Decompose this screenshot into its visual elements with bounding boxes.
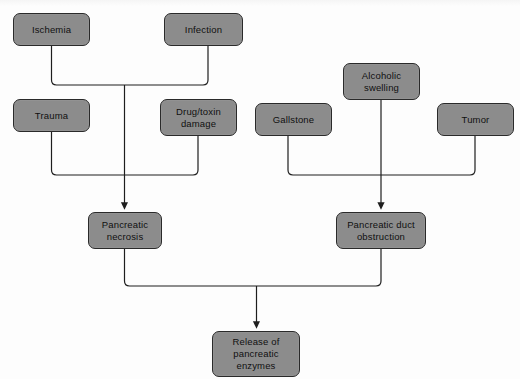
node-pancreatic-necrosis[interactable]: Pancreatic necrosis — [88, 212, 162, 249]
node-pancreatic-duct-obstruction-label: Pancreatic duct obstruction — [344, 219, 418, 243]
node-gallstone[interactable]: Gallstone — [255, 103, 332, 136]
node-release-of-pancreatic-enzymes[interactable]: Release of pancreatic enzymes — [212, 331, 300, 377]
node-trauma-label: Trauma — [32, 110, 71, 122]
node-ischemia-label: Ischemia — [29, 24, 74, 36]
node-infection-label: Infection — [182, 24, 225, 36]
node-drug-toxin-damage[interactable]: Drug/toxin damage — [160, 99, 237, 136]
node-release-of-pancreatic-enzymes-label: Release of pancreatic enzymes — [230, 336, 283, 372]
node-drug-toxin-damage-label: Drug/toxin damage — [173, 106, 224, 130]
flowchart-canvas: Ischemia Infection Trauma Drug/toxin dam… — [0, 0, 520, 379]
node-pancreatic-duct-obstruction[interactable]: Pancreatic duct obstruction — [336, 212, 426, 249]
edge-necrosis-obstruction-merge — [125, 249, 382, 286]
node-alcoholic-swelling[interactable]: Alcoholic swelling — [343, 63, 420, 100]
edge-ischemia-infection-merge — [52, 46, 209, 85]
node-alcoholic-swelling-label: Alcoholic swelling — [359, 70, 404, 94]
connector-lines — [0, 0, 520, 379]
node-tumor-label: Tumor — [459, 114, 493, 126]
node-gallstone-label: Gallstone — [270, 114, 317, 126]
node-trauma[interactable]: Trauma — [13, 99, 90, 132]
node-tumor[interactable]: Tumor — [437, 103, 514, 136]
node-ischemia[interactable]: Ischemia — [13, 13, 90, 46]
node-pancreatic-necrosis-label: Pancreatic necrosis — [99, 219, 151, 243]
node-infection[interactable]: Infection — [164, 13, 243, 46]
